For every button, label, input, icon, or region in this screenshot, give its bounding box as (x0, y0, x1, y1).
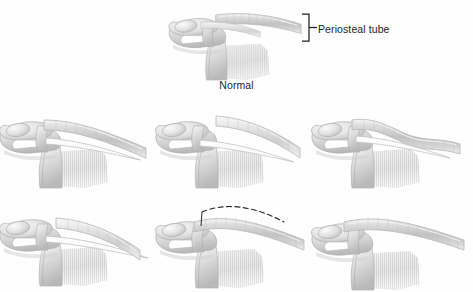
panel-variant-3-drawing (314, 100, 472, 196)
shoulder-group (311, 122, 420, 188)
figure-root: Periosteal tube Normal (0, 0, 473, 292)
panel-variant-1-drawing (2, 100, 160, 196)
panel-variant-6 (314, 196, 472, 292)
panel-variant-5-drawing (158, 196, 316, 292)
panel-variant-4-drawing (2, 196, 160, 292)
panel-variant-6-drawing (314, 196, 472, 292)
panel-variant-2 (158, 100, 316, 196)
shoulder-group (311, 224, 420, 290)
panel-variant-1 (2, 100, 160, 196)
panel-variant-2-drawing (158, 100, 316, 196)
panel-variant-3 (314, 100, 472, 196)
panel-variant-5 (158, 196, 316, 292)
periosteal-tube-label: Periosteal tube (318, 23, 390, 35)
normal-caption: Normal (0, 79, 473, 91)
panel-variant-4 (2, 196, 160, 292)
panel-normal-drawing (158, 2, 318, 80)
panel-normal (158, 2, 318, 80)
